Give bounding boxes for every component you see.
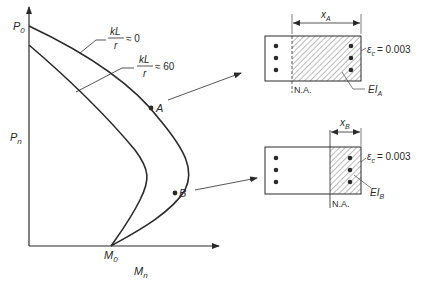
point-a-label: A bbox=[155, 102, 163, 114]
xa-label: xA bbox=[320, 9, 331, 22]
strain-label-a: εc= 0.003 bbox=[367, 44, 411, 57]
arrow-a-to-section bbox=[168, 73, 241, 100]
section-b: xB εc= 0.003 EIB N.A. bbox=[265, 117, 411, 209]
curve-kl-r-0 bbox=[29, 26, 189, 246]
point-b bbox=[173, 191, 178, 196]
eia-label: EIA bbox=[368, 84, 382, 97]
point-a bbox=[149, 106, 154, 111]
svg-text:≈ 0: ≈ 0 bbox=[126, 33, 140, 44]
svg-text:kL: kL bbox=[139, 54, 150, 65]
svg-text:r: r bbox=[143, 68, 147, 79]
na-label-b: N.A. bbox=[332, 199, 350, 209]
point-b-label: B bbox=[179, 187, 186, 199]
curve-kl-r-60 bbox=[29, 45, 147, 246]
eib-label: EIB bbox=[370, 187, 384, 200]
x-axis-label: Mn bbox=[134, 265, 148, 280]
svg-text:≈ 60: ≈ 60 bbox=[155, 61, 175, 72]
y-axis-label: Pn bbox=[10, 131, 22, 146]
strain-label-b: εc= 0.003 bbox=[367, 151, 411, 164]
svg-text:r: r bbox=[114, 40, 118, 51]
interaction-diagram: P0 Pn M0 Mn kL r ≈ 0 kL r ≈ 60 A B bbox=[0, 0, 427, 283]
p0-label: P0 bbox=[13, 20, 25, 35]
label-kl-r-0: kL r ≈ 0 bbox=[80, 26, 140, 53]
svg-text:kL: kL bbox=[110, 26, 121, 37]
section-a: xA εc= 0.003 EIA N.A. bbox=[265, 9, 411, 97]
arrow-b-to-section bbox=[195, 178, 257, 190]
xb-label: xB bbox=[339, 117, 350, 130]
na-label-a: N.A. bbox=[294, 85, 312, 95]
axes bbox=[29, 7, 219, 246]
m0-label: M0 bbox=[104, 249, 118, 264]
